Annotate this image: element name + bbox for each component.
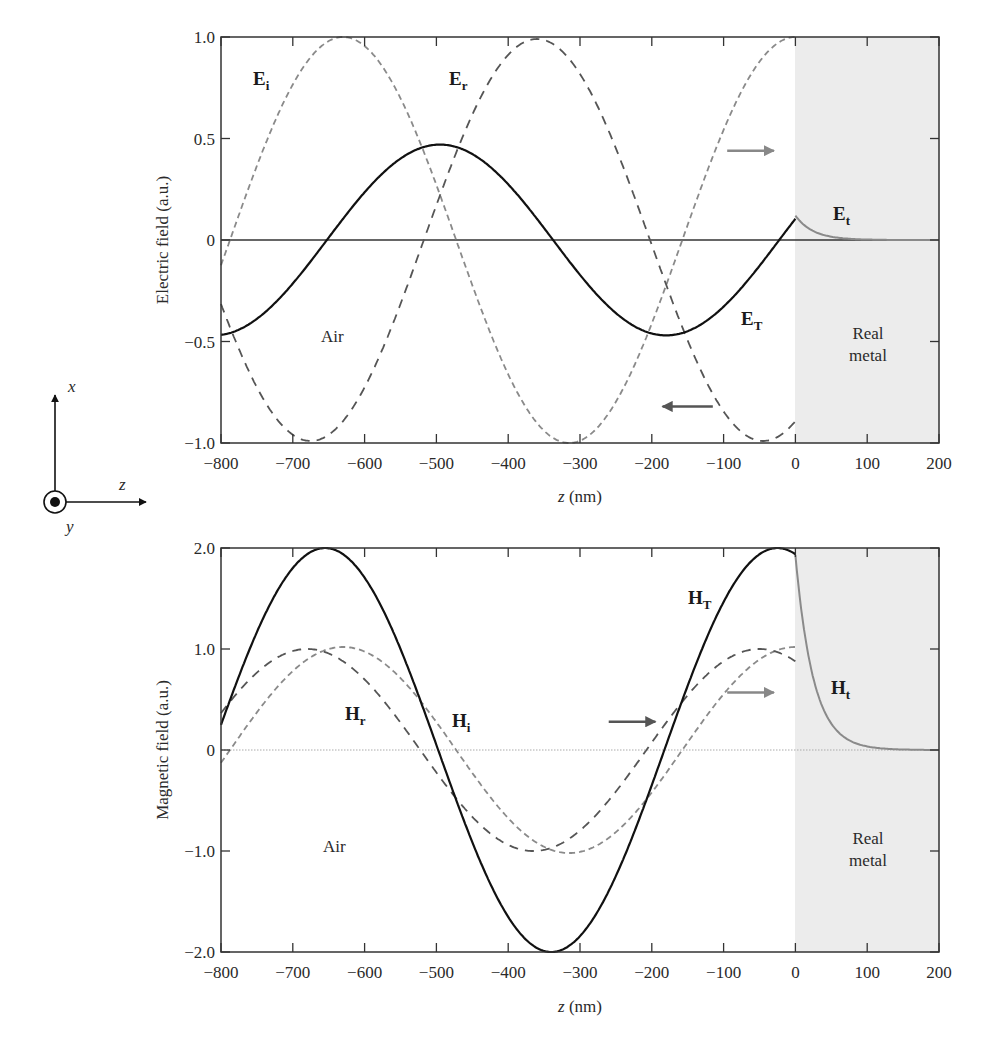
x-tick-label: −500 [419,454,454,473]
propagation-arrows [609,692,774,721]
label-E-T: ET [741,308,763,333]
x-tick-label: 200 [926,454,952,473]
x-tick-label: 100 [854,454,880,473]
x-axis-title: z (nm) [557,487,602,506]
label-E-i: Ei [253,68,270,93]
y-tick-label: 2.0 [194,539,215,558]
x-tick-label: −600 [347,454,382,473]
figure-canvas: −800−700−600−500−400−300−200−10001002001… [0,0,990,1048]
y-tick-label: 0 [207,231,216,250]
label-H-i: Hi [452,710,471,735]
coordinate-system: x z y [44,377,146,536]
metal-label-line1: Real [852,324,883,343]
x-tick-label: 200 [926,963,952,982]
label-H-T: HT [688,587,712,612]
x-tick-label: −300 [562,963,597,982]
y-tick-label: 1.0 [194,28,215,47]
metal-label-line2: metal [849,851,887,870]
x-tick-label: −200 [634,454,669,473]
coord-x-label: x [67,377,76,396]
x-tick-label: 100 [854,963,880,982]
y-axis-title: Electric field (a.u.) [153,176,172,304]
x-tick-label: 0 [791,963,800,982]
magnetic-field-chart: −800−700−600−500−400−300−200−10001002002… [153,539,952,1016]
curve-H-r [221,649,795,851]
x-tick-label: 0 [791,454,800,473]
curve-H-i [221,647,795,853]
x-tick-label: −600 [347,963,382,982]
y-axis-dot-icon [50,497,60,507]
coord-z-label: z [118,475,126,494]
x-tick-label: −400 [491,963,526,982]
x-tick-label: −500 [419,963,454,982]
y-axis-title: Magnetic field (a.u.) [153,680,172,820]
x-tick-label: −400 [491,454,526,473]
x-axis-title: z (nm) [557,997,602,1016]
label-H-r: Hr [345,703,366,728]
y-tick-label: −1.0 [184,434,215,453]
y-tick-label: 0 [207,741,216,760]
x-tick-label: −200 [634,963,669,982]
y-tick-label: −2.0 [184,943,215,962]
air-label: Air [321,327,344,346]
x-tick-label: −100 [706,454,741,473]
propagation-arrows [663,151,774,407]
metal-label-line1: Real [852,829,883,848]
coord-y-label: y [64,517,74,536]
x-tick-label: −700 [275,963,310,982]
x-tick-label: −100 [706,963,741,982]
x-tick-label: −700 [275,454,310,473]
electric-field-chart: −800−700−600−500−400−300−200−10001002001… [153,28,952,506]
air-label: Air [323,837,346,856]
metal-label-line2: metal [849,346,887,365]
y-tick-label: −1.0 [184,842,215,861]
y-tick-label: 1.0 [194,640,215,659]
x-tick-label: −800 [203,963,238,982]
label-E-r: Er [449,68,468,93]
y-tick-label: −0.5 [184,333,215,352]
x-tick-label: −300 [562,454,597,473]
y-tick-label: 0.5 [194,130,215,149]
x-tick-label: −800 [203,454,238,473]
